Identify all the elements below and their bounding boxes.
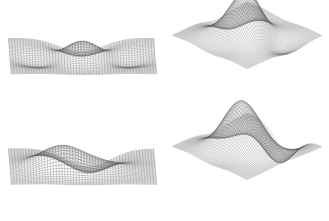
mesh-row-line xyxy=(186,140,261,173)
mesh-row-line xyxy=(11,178,156,180)
wireframe-mesh xyxy=(172,0,321,69)
mesh-col-line xyxy=(80,41,83,74)
mesh-col-line xyxy=(28,149,31,184)
mesh-row-line xyxy=(11,181,156,182)
surface-plot-bottom-left xyxy=(0,110,165,221)
surface-plot-bottom-right xyxy=(165,110,329,221)
surface-plot-bottom-left-canvas xyxy=(0,110,165,221)
mesh-col-line xyxy=(71,44,74,75)
mesh-col-line xyxy=(154,38,157,73)
mesh-col-line xyxy=(17,39,20,74)
surface-plot-top-right-canvas xyxy=(165,0,329,111)
mesh-row-line xyxy=(11,183,156,184)
mesh-col-line xyxy=(23,39,26,74)
mesh-row-line xyxy=(11,176,156,178)
wireframe-mesh xyxy=(9,145,157,185)
wireframe-mesh xyxy=(9,38,157,74)
mesh-row-line xyxy=(239,117,314,163)
mesh-col-line xyxy=(205,101,280,162)
mesh-row-line xyxy=(183,31,258,64)
surface-plot-top-left-canvas xyxy=(0,0,165,111)
mesh-row-line xyxy=(10,157,155,172)
mesh-col-line xyxy=(145,39,148,74)
figure-root xyxy=(0,0,329,221)
mesh-row-line xyxy=(11,180,156,181)
mesh-row-line xyxy=(11,184,156,185)
mesh-row-line xyxy=(9,49,154,51)
mesh-col-line xyxy=(17,149,20,184)
surface-plot-top-right xyxy=(165,0,329,111)
mesh-col-line xyxy=(242,145,317,177)
surface-plot-top-left xyxy=(0,0,165,111)
mesh-row-line xyxy=(11,70,156,71)
mesh-col-line xyxy=(23,149,26,184)
surface-plot-bottom-right-canvas xyxy=(165,110,329,221)
wireframe-mesh xyxy=(172,101,321,180)
mesh-col-line xyxy=(148,38,151,73)
mesh-col-line xyxy=(82,41,85,74)
mesh-col-line xyxy=(14,38,17,73)
